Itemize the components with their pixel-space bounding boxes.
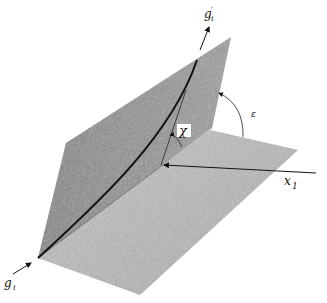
g-label: g	[4, 276, 12, 290]
g-arrow	[13, 263, 31, 274]
x1-subscript: 1	[292, 181, 298, 191]
g-prime-mark: ′	[211, 5, 213, 14]
g-prime-arrow	[200, 27, 209, 50]
x1-label: x	[284, 174, 291, 188]
g-subscript: i	[13, 283, 16, 292]
chi-label: χ	[178, 123, 188, 138]
epsilon-label: ε	[251, 109, 256, 119]
epsilon-arc	[219, 93, 243, 137]
g-prime-subscript: i	[211, 14, 214, 23]
fold-diagram: χ ε x 1 g i ′ g i	[0, 0, 327, 303]
